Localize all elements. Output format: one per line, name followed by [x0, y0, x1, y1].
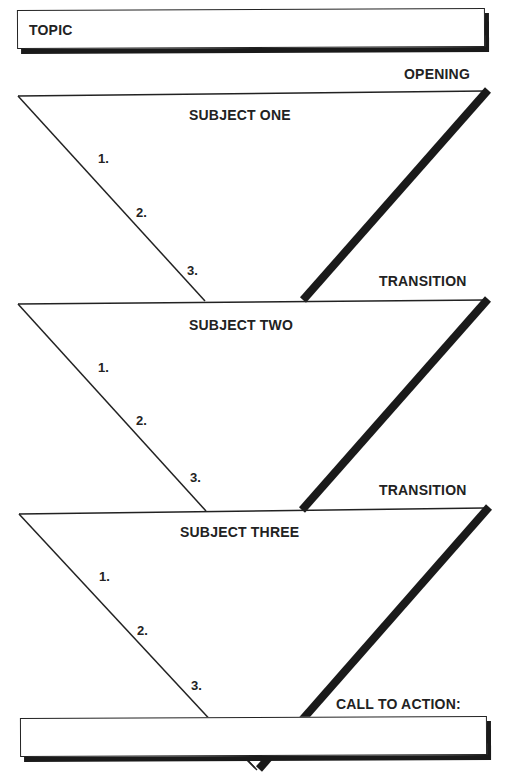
subject-three-title: SUBJECT THREE: [180, 524, 299, 540]
subject-two-point-3: 3.: [190, 470, 201, 485]
topic-label: TOPIC: [29, 22, 73, 38]
subject-three-point-3: 3.: [191, 678, 202, 693]
subject-three-point-2: 2.: [137, 623, 148, 638]
subject-one-point-3: 3.: [187, 263, 198, 278]
subject-two-title: SUBJECT TWO: [189, 317, 293, 333]
subject-one-title: SUBJECT ONE: [189, 107, 291, 123]
subject-three-point-1: 1.: [99, 569, 110, 584]
transition-label-1: TRANSITION: [379, 273, 467, 289]
call-to-action-label: CALL TO ACTION:: [336, 696, 461, 712]
subject-one-point-2: 2.: [136, 205, 147, 220]
transition-label-2: TRANSITION: [379, 482, 467, 498]
topic-box[interactable]: [17, 8, 485, 49]
opening-label: OPENING: [404, 66, 470, 82]
subject-one-point-1: 1.: [98, 151, 109, 166]
subject-two-point-2: 2.: [136, 413, 147, 428]
call-to-action-box[interactable]: [20, 716, 487, 757]
subject-two-point-1: 1.: [98, 360, 109, 375]
